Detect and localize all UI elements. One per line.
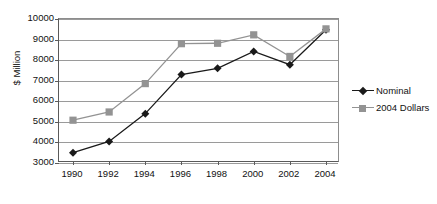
x-axis-tick-label: 2002: [269, 169, 309, 179]
x-axis-tick-label: 2004: [305, 169, 345, 179]
legend-entry: 2004 Dollars: [352, 99, 437, 116]
line-chart: $ Million 100009000800070006000500040003…: [0, 0, 437, 204]
x-axis-tick-label: 1998: [197, 169, 237, 179]
x-axis-tick-label: 1996: [160, 169, 200, 179]
square-marker-icon: [352, 102, 374, 113]
x-axis-tick-label: 1992: [88, 169, 128, 179]
legend-label: Nominal: [376, 85, 411, 96]
diamond-marker-icon: [352, 85, 374, 96]
x-axis-tick-label: 1990: [52, 169, 92, 179]
chart-legend: Nominal2004 Dollars: [352, 82, 437, 116]
x-axis-tick-label: 1994: [124, 169, 164, 179]
legend-label: 2004 Dollars: [376, 102, 429, 113]
legend-entry: Nominal: [352, 82, 437, 99]
x-axis-tick-label: 2000: [233, 169, 273, 179]
